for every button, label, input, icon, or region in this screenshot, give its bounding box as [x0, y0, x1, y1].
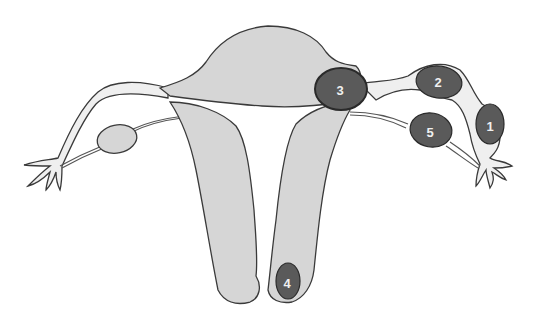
- left-ovary: [95, 121, 140, 157]
- diagram-stage: 3 2 1 5 4: [0, 0, 547, 318]
- site-1-label: 1: [486, 119, 493, 134]
- left-cervix-wall: [170, 102, 259, 304]
- site-4-label: 4: [283, 276, 291, 291]
- site-4: 4: [276, 263, 300, 299]
- anatomy-diagram: 3 2 1 5 4: [0, 0, 547, 318]
- site-5-label: 5: [426, 125, 433, 140]
- left-fallopian-tube: [24, 82, 168, 190]
- site-1: 1: [476, 104, 504, 144]
- site-5: 5: [407, 110, 454, 151]
- site-3-label: 3: [336, 83, 343, 98]
- site-3: 3: [315, 68, 367, 110]
- site-2-label: 2: [434, 75, 441, 90]
